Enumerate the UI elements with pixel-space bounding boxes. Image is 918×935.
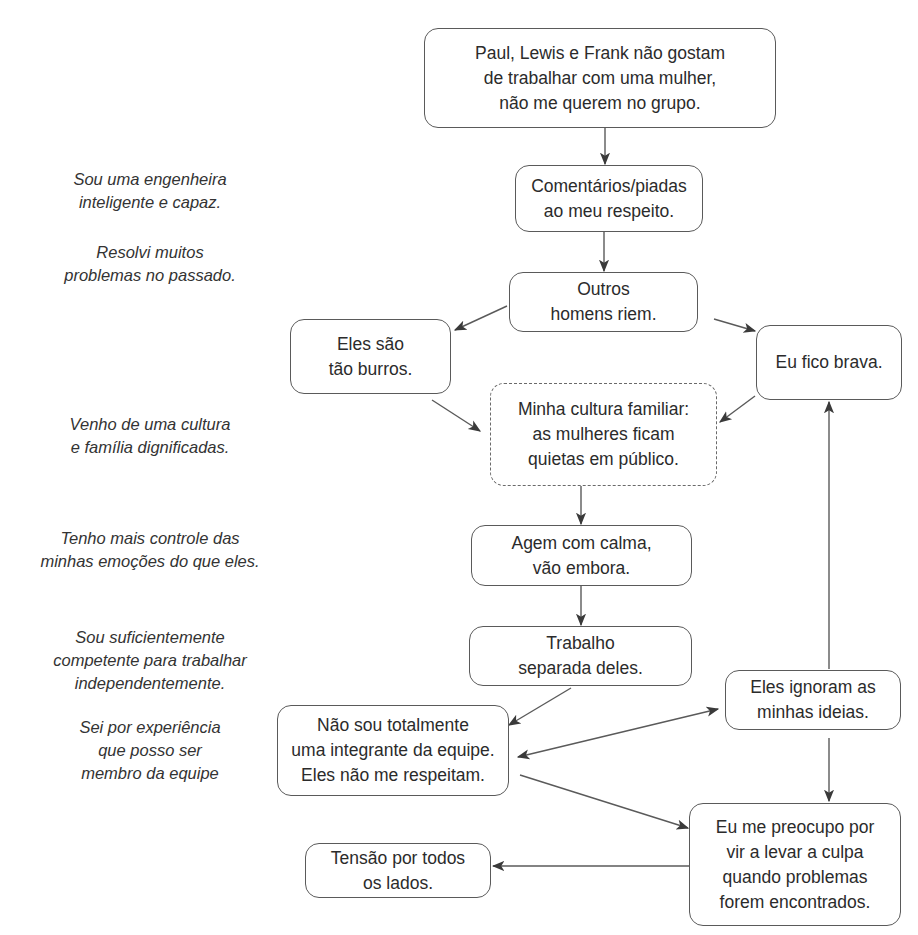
note-text: competente para trabalhar: [10, 649, 290, 672]
node-text: tão burros.: [329, 357, 413, 382]
node-text: Eles são: [337, 332, 404, 357]
node-tension-everywhere: Tensão por todos os lados.: [305, 843, 491, 898]
node-text: Eu me preocupo por: [716, 815, 875, 840]
note-text: independentemente.: [10, 672, 290, 695]
node-text: as mulheres ficam: [533, 422, 675, 447]
node-text: Agem com calma,: [511, 531, 651, 556]
note-text: Sei por experiência: [10, 716, 290, 739]
node-text: separada deles.: [518, 656, 643, 681]
node-they-are-dumb: Eles são tão burros.: [290, 319, 451, 394]
node-worry-about-blame: Eu me preocupo por vir a levar a culpa q…: [689, 803, 901, 926]
note-text: inteligente e capaz.: [10, 191, 290, 214]
node-other-men-laugh: Outros homens riem.: [509, 272, 698, 332]
note-dignified-culture: Venho de uma cultura e família dignifica…: [10, 413, 290, 459]
node-text: Outros: [577, 277, 630, 302]
node-comments-jokes: Comentários/piadas ao meu respeito.: [515, 165, 703, 232]
node-text: Eles ignoram as: [750, 675, 875, 700]
note-emotional-control: Tenho mais controle das minhas emoções d…: [5, 527, 295, 573]
node-text: Eles não me respeitam.: [301, 763, 485, 788]
node-act-calmly: Agem com calma, vão embora.: [471, 525, 692, 586]
arrow-n8-n10: [509, 688, 571, 725]
node-not-team-member: Não sou totalmente uma integrante da equ…: [277, 705, 509, 796]
arrow-n4-n6: [432, 400, 480, 431]
node-text: homens riem.: [550, 302, 656, 327]
node-text: uma integrante da equipe.: [291, 738, 494, 763]
node-i-get-angry: Eu fico brava.: [756, 325, 902, 400]
node-text: minhas ideias.: [757, 700, 869, 725]
note-solved-problems: Resolvi muitos problemas no passado.: [10, 241, 290, 287]
node-text: não me querem no grupo.: [499, 91, 700, 116]
note-text: Tenho mais controle das: [5, 527, 295, 550]
node-text: ao meu respeito.: [544, 199, 674, 224]
note-text: minhas emoções do que eles.: [5, 550, 295, 573]
arrow-n10-n9-bidirectional: [518, 709, 718, 757]
node-text: Paul, Lewis e Frank não gostam: [475, 41, 725, 66]
note-text: Sou suficientemente: [10, 626, 290, 649]
note-text: membro da equipe: [10, 762, 290, 785]
node-text: Trabalho: [546, 631, 614, 656]
note-team-experience: Sei por experiência que posso ser membro…: [10, 716, 290, 785]
note-competent-independent: Sou suficientemente competente para trab…: [10, 626, 290, 695]
node-text: os lados.: [363, 871, 433, 896]
node-text: Comentários/piadas: [531, 174, 687, 199]
node-family-culture: Minha cultura familiar: as mulheres fica…: [490, 383, 717, 486]
node-text: Eu fico brava.: [776, 350, 883, 375]
note-text: problemas no passado.: [10, 264, 290, 287]
arrow-n10-n11: [520, 775, 688, 828]
node-text: vir a levar a culpa: [726, 840, 863, 865]
node-text: vão embora.: [533, 556, 630, 581]
note-text: Resolvi muitos: [10, 241, 290, 264]
node-text: Não sou totalmente: [317, 713, 469, 738]
node-text: de trabalhar com uma mulher,: [484, 66, 716, 91]
note-text: e família dignificadas.: [10, 436, 290, 459]
note-text: Venho de uma cultura: [10, 413, 290, 436]
node-refusal-to-work-with-woman: Paul, Lewis e Frank não gostam de trabal…: [424, 28, 776, 128]
note-capable-engineer: Sou uma engenheira inteligente e capaz.: [10, 168, 290, 214]
node-text: quietas em público.: [528, 447, 679, 472]
arrow-n3-n5: [714, 319, 755, 331]
node-text: forem encontrados.: [720, 890, 871, 915]
arrow-n5-n6: [720, 396, 755, 422]
note-text: que posso ser: [10, 739, 290, 762]
node-text: Tensão por todos: [331, 846, 465, 871]
node-work-separately: Trabalho separada deles.: [469, 626, 692, 686]
node-text: Minha cultura familiar:: [518, 397, 689, 422]
note-text: Sou uma engenheira: [10, 168, 290, 191]
node-text: quando problemas: [723, 865, 868, 890]
node-they-ignore-ideas: Eles ignoram as minhas ideias.: [725, 670, 901, 730]
arrow-n3-n4: [455, 306, 507, 330]
